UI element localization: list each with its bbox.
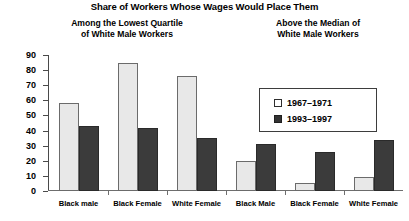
bar-series1 [236, 161, 256, 191]
bar-series2 [374, 140, 394, 191]
y-axis-tick [43, 191, 48, 192]
legend-swatch-icon-light [274, 99, 282, 107]
x-axis-category-label: White Female [344, 199, 403, 208]
legend: 1967–1971 1993–1997 [259, 88, 377, 132]
legend-label-1993-1997: 1993–1997 [287, 114, 332, 124]
x-axis-category-label: Black male [49, 199, 108, 208]
x-axis-category-label: Black Female [285, 199, 344, 208]
chart-subtitle-right: Above the Median of White Male Workers [248, 18, 388, 39]
chart-subtitle-left: Among the Lowest Quartile of White Male … [52, 18, 202, 39]
y-axis-tick [43, 131, 48, 132]
y-axis-tick-label: 40 [14, 126, 36, 136]
y-axis-tick [43, 85, 48, 86]
y-axis-tick-label: 50 [14, 110, 36, 120]
bar-series2 [79, 126, 99, 191]
y-axis-tick-label: 20 [14, 156, 36, 166]
bar-series2 [138, 128, 158, 191]
bar-group [49, 55, 108, 191]
y-axis-tick-label: 10 [14, 171, 36, 181]
y-axis-tick-label: 80 [14, 65, 36, 75]
x-axis-category-label: Black Female [108, 199, 167, 208]
y-axis-tick-label: 30 [14, 141, 36, 151]
bar-group [108, 55, 167, 191]
y-axis-tick [43, 55, 48, 56]
y-axis-tick-label: 60 [14, 95, 36, 105]
bar-series1 [177, 76, 197, 191]
legend-label-1967-1971: 1967–1971 [287, 98, 332, 108]
bar-series2 [315, 152, 335, 191]
legend-swatch-icon-dark [274, 115, 282, 123]
legend-item-1967-1971: 1967–1971 [274, 95, 376, 111]
y-axis-tick [43, 146, 48, 147]
bar-chart: Share of Workers Whose Wages Would Place… [0, 0, 409, 221]
chart-subtitle-left-line-1: Among the Lowest Quartile [52, 18, 202, 29]
x-axis-tick [285, 191, 286, 195]
y-axis-tick-label: 70 [14, 80, 36, 90]
legend-item-1993-1997: 1993–1997 [274, 111, 376, 127]
bar-series1 [118, 63, 138, 191]
chart-title: Share of Workers Whose Wages Would Place… [0, 1, 409, 12]
y-axis-tick [43, 70, 48, 71]
bar-series2 [256, 144, 276, 191]
x-axis-category-labels: Black maleBlack FemaleWhite FemaleBlack … [49, 199, 403, 208]
bar-series1 [295, 183, 315, 191]
x-axis-category-label: White Female [167, 199, 226, 208]
bar-series1 [354, 177, 374, 191]
x-axis-tick [344, 191, 345, 195]
bar-series1 [59, 103, 79, 191]
bar-group [167, 55, 226, 191]
bar-series2 [197, 138, 217, 191]
y-axis-tick-label: 90 [14, 50, 36, 60]
y-axis-tick-label: 0 [14, 186, 36, 196]
y-axis-tick [43, 161, 48, 162]
x-axis-tick [108, 191, 109, 195]
chart-subtitle-right-line-1: Above the Median of [248, 18, 388, 29]
y-axis-tick [43, 100, 48, 101]
chart-subtitle-left-line-2: of White Male Workers [52, 29, 202, 40]
x-axis-category-label: Black Male [226, 199, 285, 208]
chart-subtitle-right-line-2: White Male Workers [248, 29, 388, 40]
x-axis-tick [167, 191, 168, 195]
y-axis-tick [43, 176, 48, 177]
x-axis-tick [226, 191, 227, 195]
y-axis-tick [43, 115, 48, 116]
